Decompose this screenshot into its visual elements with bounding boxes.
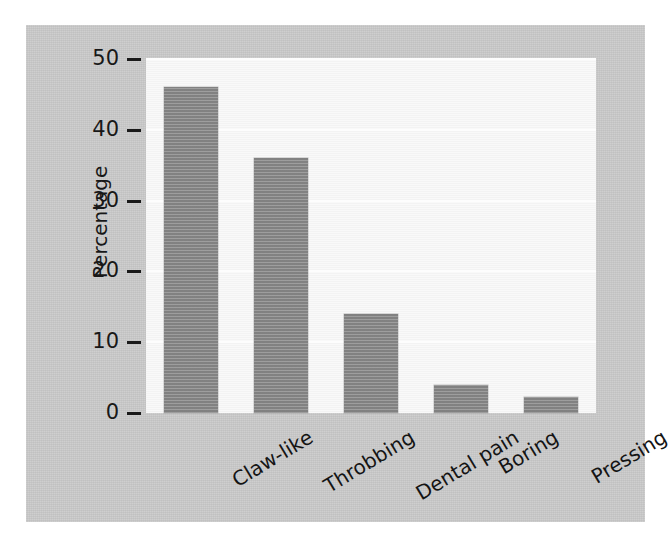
plot-area: [146, 59, 596, 413]
y-axis-tick: [127, 270, 141, 273]
gridline: [146, 58, 596, 60]
x-axis-tick-label: Throbbing: [319, 425, 418, 498]
y-axis-tick: [127, 200, 141, 203]
bar: [434, 385, 488, 413]
figure-panel: Percentage 01020304050 Claw-likeThrobbin…: [26, 25, 645, 522]
y-axis-tick: [127, 129, 141, 132]
y-axis-tick-label: 20: [73, 260, 119, 281]
y-axis-tick-label: 10: [73, 331, 119, 352]
y-axis-tick-label: 0: [73, 402, 119, 423]
y-axis-tick: [127, 412, 141, 415]
y-axis-tick: [127, 58, 141, 61]
bar: [344, 314, 398, 413]
y-axis-tick-label: 30: [73, 190, 119, 211]
x-axis-tick-label: Pressing: [587, 425, 671, 489]
y-axis-tick: [127, 341, 141, 344]
bar: [254, 158, 308, 413]
bar: [524, 397, 578, 413]
bar: [164, 87, 218, 413]
y-axis-tick-label: 50: [73, 48, 119, 69]
y-axis-tick-label: 40: [73, 119, 119, 140]
x-axis-tick-label: Claw-like: [228, 425, 317, 492]
